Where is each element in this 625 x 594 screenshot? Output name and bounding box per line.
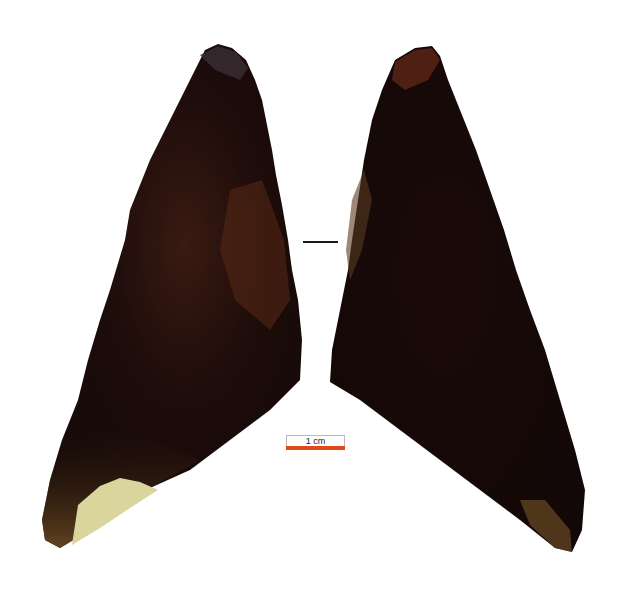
scale-bar-label: 1 cm xyxy=(286,435,345,446)
section-marker xyxy=(303,241,338,243)
left-artifact-view xyxy=(0,0,625,594)
right-artifact-body xyxy=(330,46,585,552)
scale-bar: 1 cm xyxy=(286,435,345,450)
artifact-figure: 1 cm xyxy=(0,0,625,594)
scale-bar-fill xyxy=(286,446,345,450)
